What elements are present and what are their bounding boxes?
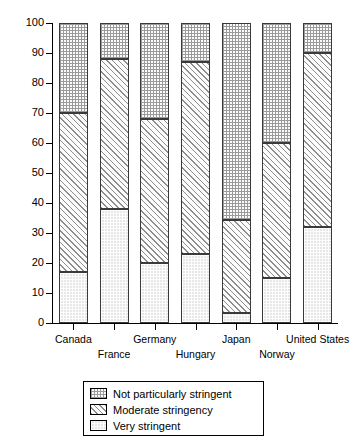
y-tick: [46, 203, 52, 204]
bar-segment-moderate-stringency: [140, 119, 169, 263]
y-tick-label-wrap: 60: [0, 137, 44, 148]
y-tick: [46, 233, 52, 234]
plot-area: [53, 23, 338, 323]
x-axis-label-united-states: United States: [273, 333, 354, 345]
x-tick: [73, 324, 74, 330]
bar-segment-not-particularly-stringent: [181, 23, 210, 62]
bar-france: [100, 23, 129, 323]
bar-segment-moderate-stringency: [303, 53, 332, 227]
legend-label: Very stringent: [113, 420, 180, 432]
legend-label: Moderate stringency: [113, 404, 213, 416]
bar-segment-moderate-stringency: [222, 220, 251, 313]
bar-segment-very-stringent: [181, 254, 210, 323]
bar-segment-very-stringent: [59, 272, 88, 323]
legend-item: Moderate stringency: [90, 402, 257, 417]
bar-united-states: [303, 23, 332, 323]
legend-label: Not particularly stringent: [113, 388, 232, 400]
bar-segment-not-particularly-stringent: [262, 23, 291, 143]
x-tick: [277, 324, 278, 330]
bar-norway: [262, 23, 291, 323]
y-tick: [46, 83, 52, 84]
y-tick: [46, 53, 52, 54]
x-axis-label-france: France: [69, 348, 159, 360]
y-tick: [46, 173, 52, 174]
bar-segment-not-particularly-stringent: [303, 23, 332, 53]
bar-segment-not-particularly-stringent: [59, 23, 88, 113]
y-tick-label: 40: [4, 197, 44, 208]
bar-segment-not-particularly-stringent: [140, 23, 169, 119]
bar-hungary: [181, 23, 210, 323]
x-tick: [114, 324, 115, 330]
y-tick-label-wrap: 0: [0, 317, 44, 328]
bar-segment-very-stringent: [140, 263, 169, 323]
y-tick: [46, 293, 52, 294]
y-tick: [46, 113, 52, 114]
x-tick: [236, 324, 237, 330]
y-tick-label-wrap: 50: [0, 167, 44, 178]
bar-segment-very-stringent: [100, 209, 129, 323]
y-tick: [46, 143, 52, 144]
bar-segment-very-stringent: [222, 313, 251, 324]
y-tick-label: 90: [4, 47, 44, 58]
y-tick-label: 60: [4, 137, 44, 148]
x-axis-label-hungary: Hungary: [151, 348, 241, 360]
y-tick-label-wrap: 40: [0, 197, 44, 208]
legend-swatch-very-stringent: [90, 420, 107, 431]
bar-segment-very-stringent: [262, 278, 291, 323]
x-tick: [318, 324, 319, 330]
y-tick-label-wrap: 20: [0, 257, 44, 268]
bar-segment-moderate-stringency: [59, 113, 88, 272]
x-tick: [155, 324, 156, 330]
legend: Not particularly stringent Moderate stri…: [83, 381, 264, 436]
bar-japan: [222, 23, 251, 323]
bar-segment-not-particularly-stringent: [222, 23, 251, 220]
legend-item: Not particularly stringent: [90, 386, 257, 401]
x-axis-label-japan: Japan: [191, 333, 281, 345]
bar-segment-not-particularly-stringent: [100, 23, 129, 59]
y-tick-label-wrap: 30: [0, 227, 44, 238]
y-tick-label-wrap: 10: [0, 287, 44, 298]
y-tick-label: 20: [4, 257, 44, 268]
y-tick: [46, 263, 52, 264]
bar-segment-moderate-stringency: [262, 143, 291, 278]
bar-germany: [140, 23, 169, 323]
legend-item: Very stringent: [90, 418, 257, 433]
y-tick-label-wrap: 90: [0, 47, 44, 58]
y-tick-label-wrap: 100: [0, 17, 44, 28]
x-axis-label-canada: Canada: [28, 333, 118, 345]
bar-canada: [59, 23, 88, 323]
y-tick-label: 30: [4, 227, 44, 238]
x-tick: [196, 324, 197, 330]
y-tick-label: 0: [4, 317, 44, 328]
bar-segment-moderate-stringency: [100, 59, 129, 209]
bar-segment-moderate-stringency: [181, 62, 210, 254]
y-tick-label-wrap: 70: [0, 107, 44, 118]
y-tick-label: 80: [4, 77, 44, 88]
bar-segment-very-stringent: [303, 227, 332, 323]
y-tick-label-wrap: 80: [0, 77, 44, 88]
legend-swatch-not-particularly-stringent: [90, 388, 107, 399]
x-axis-label-norway: Norway: [232, 348, 322, 360]
legend-swatch-moderate-stringency: [90, 404, 107, 415]
y-tick-label: 100: [4, 17, 44, 28]
y-tick-label: 10: [4, 287, 44, 298]
x-axis-label-germany: Germany: [110, 333, 200, 345]
y-tick-label: 70: [4, 107, 44, 118]
y-tick-label: 50: [4, 167, 44, 178]
y-tick: [46, 23, 52, 24]
